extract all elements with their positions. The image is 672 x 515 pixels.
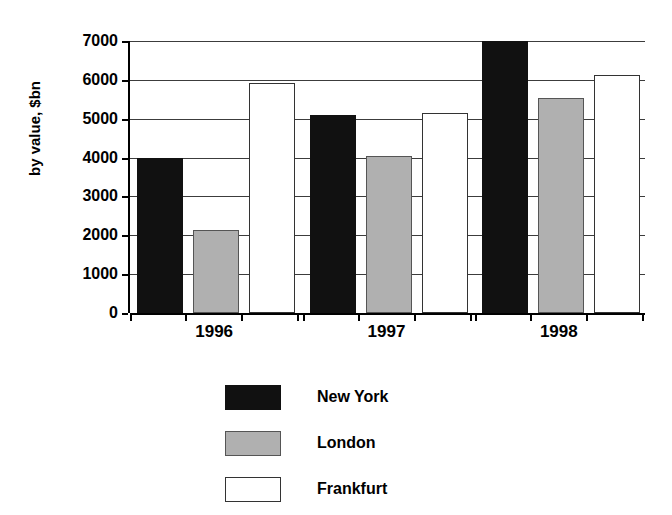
x-tick-mark-1996-0	[185, 313, 187, 321]
legend-label-frankfurt: Frankfurt	[317, 480, 387, 498]
y-tick-label-6000: 6000	[52, 72, 118, 88]
x-tick-mark-1997-1	[414, 313, 416, 321]
gridline-0	[130, 313, 645, 315]
x-tick-mark-1996-3	[130, 313, 132, 321]
bar-frankfurt-1997	[422, 113, 468, 313]
plot-area	[128, 41, 645, 313]
bar-new-york-1997	[310, 115, 356, 313]
x-tick-mark-1997-2	[470, 313, 472, 321]
y-tick-label-2000: 2000	[52, 227, 118, 243]
x-tick-mark-1996-2	[297, 313, 299, 321]
y-tick-label-5000: 5000	[52, 111, 118, 127]
x-tick-mark-1997-3	[303, 313, 305, 321]
bar-london-1997	[366, 156, 412, 313]
x-tick-label-1998: 1998	[499, 322, 619, 342]
legend-swatch-frankfurt	[225, 477, 281, 502]
y-axis-title: by value, $bn	[26, 49, 43, 209]
bar-chart: by value, $bn 01000200030004000500060007…	[0, 0, 672, 515]
gridline-6000	[130, 80, 645, 81]
legend-label-new-york: New York	[317, 388, 388, 406]
bar-london-1996	[193, 230, 239, 313]
y-tick-label-0: 0	[52, 305, 118, 321]
x-tick-mark-1998-1	[586, 313, 588, 321]
gridline-7000	[130, 41, 645, 42]
x-tick-mark-1997-0	[358, 313, 360, 321]
y-tick-label-4000: 4000	[52, 150, 118, 166]
x-tick-mark-1998-0	[530, 313, 532, 321]
x-tick-label-1997: 1997	[327, 322, 447, 342]
bar-london-1998	[538, 98, 584, 313]
bar-frankfurt-1996	[249, 83, 295, 313]
y-tick-label-1000: 1000	[52, 266, 118, 282]
legend-item-new-york: New York	[225, 378, 388, 416]
y-tick-label-7000: 7000	[52, 33, 118, 49]
x-tick-mark-1998-3	[475, 313, 477, 321]
bar-frankfurt-1998	[594, 75, 640, 313]
bar-new-york-1998	[482, 41, 528, 313]
x-tick-mark-1998-2	[642, 313, 644, 321]
legend-item-frankfurt: Frankfurt	[225, 470, 388, 508]
x-tick-mark-1996-1	[241, 313, 243, 321]
legend-label-london: London	[317, 434, 376, 452]
legend-swatch-london	[225, 431, 281, 456]
y-tick-mark-0	[122, 313, 128, 315]
bar-new-york-1996	[137, 158, 183, 313]
chart-legend: New YorkLondonFrankfurt	[225, 378, 388, 515]
x-tick-label-1996: 1996	[154, 322, 274, 342]
legend-item-london: London	[225, 424, 388, 462]
y-tick-label-3000: 3000	[52, 188, 118, 204]
legend-swatch-new-york	[225, 385, 281, 410]
